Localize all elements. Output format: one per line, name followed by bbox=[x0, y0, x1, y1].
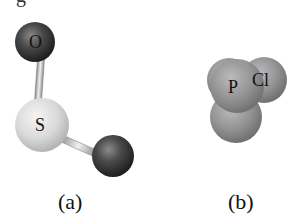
panel-b-space-filling: P Cl bbox=[207, 57, 287, 143]
atom-label-o: O bbox=[29, 32, 42, 52]
atom-label-cl: Cl bbox=[252, 70, 269, 90]
partial-heading-text: g bbox=[16, 0, 26, 7]
caption-a: (a) bbox=[58, 189, 82, 215]
atom-label-s: S bbox=[35, 115, 45, 135]
atom-label-p: P bbox=[228, 77, 238, 97]
bond-o-s bbox=[34, 58, 44, 102]
atom-unlabeled-dark bbox=[92, 135, 134, 177]
molecule-figure: O S P Cl bbox=[0, 0, 302, 219]
caption-b: (b) bbox=[228, 189, 254, 215]
panel-a-ball-and-stick: O S bbox=[15, 22, 134, 177]
